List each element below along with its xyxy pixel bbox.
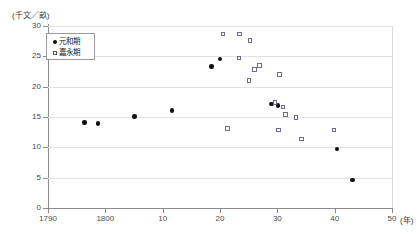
data-point <box>170 108 174 112</box>
data-point <box>237 32 241 36</box>
x-tick <box>48 208 49 213</box>
y-tick <box>43 178 48 179</box>
data-point <box>277 72 281 76</box>
x-tick-label: 1790 <box>28 214 68 223</box>
y-axis-label: (千文／畝) <box>12 9 49 20</box>
filled-circle-icon <box>50 40 59 44</box>
data-point <box>248 38 252 42</box>
data-point <box>247 78 251 82</box>
y-tick-label: 20 <box>19 82 41 91</box>
x-tick-label: 1800 <box>85 214 125 223</box>
data-point <box>273 100 277 104</box>
x-tick <box>163 208 164 213</box>
legend-label: 元和期 <box>59 37 80 47</box>
data-point <box>221 32 225 36</box>
data-point <box>132 114 136 118</box>
legend-item-kaei[interactable]: 嘉永期 <box>50 47 91 58</box>
y-tick-label: 15 <box>19 112 41 121</box>
x-tick-label: 30 <box>257 214 297 223</box>
data-point <box>299 137 303 141</box>
data-point <box>209 64 213 68</box>
data-point <box>332 128 336 132</box>
x-tick <box>392 208 393 213</box>
x-tick-label: 40 <box>315 214 355 223</box>
x-tick-label: 20 <box>200 214 240 223</box>
data-point <box>294 115 298 119</box>
data-point <box>237 56 241 60</box>
legend-label: 嘉永期 <box>59 48 80 58</box>
data-point <box>225 126 229 130</box>
data-point <box>257 63 261 67</box>
x-tick <box>220 208 221 213</box>
x-tick <box>335 208 336 213</box>
data-point <box>335 147 339 151</box>
gridline <box>48 117 392 118</box>
plot-right-border <box>392 26 393 208</box>
gridline <box>48 178 392 179</box>
x-axis-label: (年) <box>400 214 413 225</box>
gridline <box>48 26 392 27</box>
y-tick-label: 5 <box>19 173 41 182</box>
data-point <box>82 120 86 124</box>
y-tick <box>43 117 48 118</box>
y-tick-label: 10 <box>19 142 41 151</box>
data-point <box>276 128 280 132</box>
y-tick-label: 30 <box>19 21 41 30</box>
y-tick <box>43 26 48 27</box>
data-point <box>96 121 100 125</box>
data-point <box>283 112 287 116</box>
legend-item-genna[interactable]: 元和期 <box>50 36 91 47</box>
data-point <box>281 105 285 109</box>
y-tick-label: 25 <box>19 51 41 60</box>
x-tick <box>105 208 106 213</box>
x-tick-label: 10 <box>143 214 183 223</box>
y-tick <box>43 87 48 88</box>
data-point <box>218 57 222 61</box>
legend-box: 元和期 嘉永期 <box>46 33 95 60</box>
gridline <box>48 87 392 88</box>
chart-canvas: (千文／畝) 302520151050 179018001020304050 (… <box>0 0 420 237</box>
x-tick <box>277 208 278 213</box>
y-tick-label: 0 <box>19 203 41 212</box>
y-tick <box>43 147 48 148</box>
data-point <box>252 67 256 71</box>
open-square-icon <box>50 51 59 55</box>
gridline <box>48 147 392 148</box>
data-point <box>350 178 354 182</box>
